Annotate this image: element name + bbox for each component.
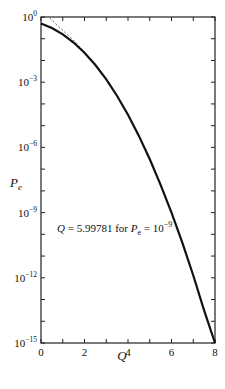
x-axis-title: Q bbox=[117, 348, 127, 363]
y-tick-label: 10−12 bbox=[14, 270, 37, 284]
axis-ticks bbox=[41, 17, 215, 343]
y-tick-label: 100 bbox=[22, 9, 37, 23]
x-tick-label: 6 bbox=[169, 346, 175, 358]
y-tick-label: 10−15 bbox=[14, 335, 37, 349]
x-tick-label: 2 bbox=[82, 346, 88, 358]
annotation: Q = 5.99781 for Pe = 10−9 bbox=[57, 220, 172, 237]
error-probability-curve bbox=[41, 24, 215, 344]
plot-frame bbox=[41, 17, 215, 343]
y-tick-label: 10−9 bbox=[18, 205, 37, 219]
x-tick-labels: 02468 bbox=[38, 346, 218, 358]
y-tick-label: 10−3 bbox=[18, 74, 37, 88]
x-tick-label: 0 bbox=[38, 346, 44, 358]
chart: 10010−310−610−910−1210−15 02468 Q Pe Q =… bbox=[0, 0, 225, 389]
y-tick-label: 10−6 bbox=[18, 139, 37, 153]
x-tick-label: 8 bbox=[212, 346, 218, 358]
y-axis-title: Pe bbox=[9, 175, 22, 192]
